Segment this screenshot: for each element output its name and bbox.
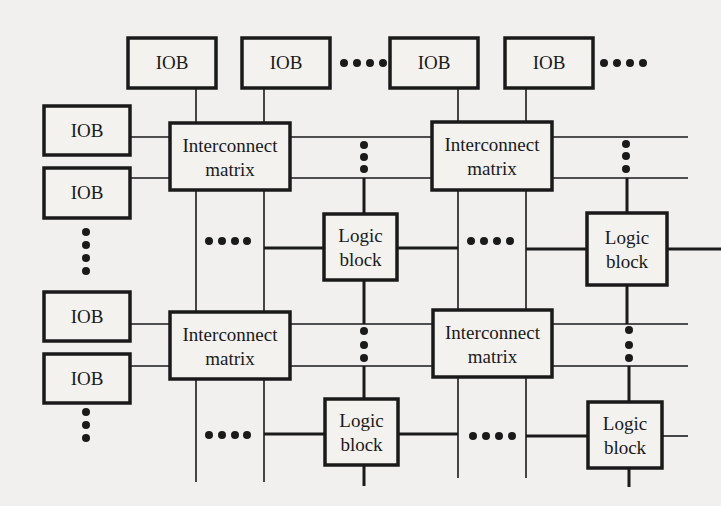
logic-block: Logicblock [324,214,397,280]
interconnect-matrix-border [433,310,552,377]
iob-block-label: IOB [156,52,189,73]
iob-block-label: IOB [71,120,104,141]
iob-block: IOB [44,168,130,218]
iob-block: IOB [128,38,216,88]
logic-block-label: block [604,437,647,458]
interconnect-matrix: Interconnectmatrix [170,123,290,190]
logic-block: Logicblock [587,213,667,285]
logic-block-border [325,399,398,465]
interconnect-matrix: Interconnectmatrix [170,312,290,379]
logic-block-label: block [339,249,382,270]
fpga-architecture-diagram: IOBIOBIOBIOBIOBIOBIOBIOBInterconnectmatr… [0,0,721,506]
iob-block-label: IOB [533,52,566,73]
logic-block-label: block [606,251,649,272]
logic-block-label: Logic [605,227,649,248]
interconnect-matrix-label: matrix [467,158,517,179]
interconnect-matrix-border [170,312,290,379]
iob-block-label: IOB [418,52,451,73]
logic-block-label: Logic [338,225,382,246]
iob-block: IOB [44,292,130,341]
iob-block: IOB [390,38,478,88]
iob-block-label: IOB [270,52,303,73]
iob-block-label: IOB [71,368,104,389]
interconnect-matrix-label: matrix [468,346,518,367]
interconnect-matrix: Interconnectmatrix [433,310,552,377]
interconnect-matrix-label: matrix [205,348,255,369]
logic-block-label: Logic [603,413,647,434]
interconnect-matrix-label: Interconnect [445,134,541,155]
interconnect-matrix-label: Interconnect [183,324,279,345]
iob-block-label: IOB [71,182,104,203]
interconnect-matrix-label: Interconnect [183,135,279,156]
interconnect-matrix-border [432,122,552,190]
logic-block-border [324,214,397,280]
blocks: IOBIOBIOBIOBIOBIOBIOBIOBInterconnectmatr… [44,38,667,468]
logic-block-label: Logic [339,410,383,431]
logic-block-border [588,402,662,468]
interconnect-matrix-label: matrix [205,159,255,180]
iob-block-label: IOB [71,306,104,327]
iob-block: IOB [44,354,130,403]
interconnect-matrix-border [170,123,290,190]
logic-block: Logicblock [588,402,662,468]
logic-block: Logicblock [325,399,398,465]
logic-block-border [587,213,667,285]
interconnect-matrix: Interconnectmatrix [432,122,552,190]
logic-block-label: block [340,434,383,455]
iob-block: IOB [505,38,593,88]
iob-block: IOB [242,38,330,88]
interconnect-matrix-label: Interconnect [445,322,541,343]
iob-block: IOB [44,106,130,155]
